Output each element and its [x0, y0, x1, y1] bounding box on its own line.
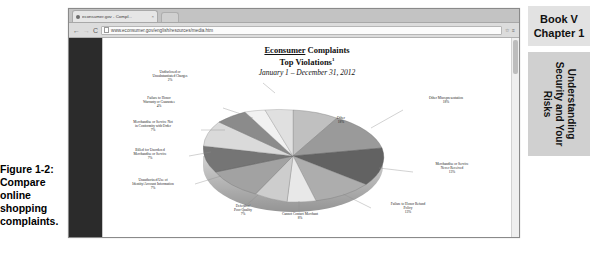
forward-icon[interactable]: → [83, 27, 90, 34]
back-icon[interactable]: ← [73, 27, 80, 34]
menu-icon[interactable]: ≡ [512, 27, 515, 33]
pie-slice-label-conformity: Merchandise or Service Not in Conformity… [105, 120, 201, 132]
pie-slice-value-defective: 7% [241, 212, 246, 216]
browser-window: econsumer.gov - Compl... × ← → C www.eco… [68, 8, 520, 238]
new-tab-button[interactable] [161, 12, 179, 22]
chart-title-footnote-marker: 1 [332, 57, 335, 62]
pie-slice-value-other-misrepresentation: 18% [443, 100, 449, 104]
pie-slice-value-identity: 7% [151, 186, 156, 190]
chapter-title-line2: Security and Your [554, 62, 565, 147]
chart-title: Econsumer Complaints [103, 45, 511, 55]
address-bar-url: www.econsumer.gov/english/resources/medi… [111, 28, 213, 33]
pie-slice-value-other: 18% [338, 120, 344, 124]
pie-slice-label-never-received: Merchandise or Service Never Received 13… [409, 162, 495, 174]
pie-slice-value-undisclosed: 2% [168, 78, 173, 82]
page-content: Econsumer Complaints Top Violations1 Jan… [102, 38, 511, 237]
pie-slice-value-refund-policy: 13% [405, 210, 411, 214]
pie-slice-label-warranty: Failure to Honor Warranty or Guarantee 4… [117, 96, 201, 108]
pie-slice-value-conformity: 7% [151, 128, 156, 132]
globe-icon [76, 15, 80, 19]
site-sidebar[interactable] [69, 38, 102, 237]
pie-slice-value-billed-unordered: 7% [148, 156, 153, 160]
vertical-scrollbar[interactable] [511, 38, 519, 237]
pie-slice-label-other-misrepresentation: Other Misrepresentation 18% [403, 96, 489, 104]
page-icon [104, 27, 109, 33]
pie-slice-label-defective: Defective/ Poor Quality 7% [207, 204, 279, 216]
pie-slice-label-identity: Unauthorized Use of Identity/Account Inf… [109, 178, 197, 190]
book-chapter-tab: Book V Chapter 1 [528, 6, 590, 46]
pie-slice-value-cannot-contact: 8% [298, 216, 303, 220]
chart-title-word-econsumer: Econsumer [264, 45, 305, 55]
pie-slice-value-never-received: 13% [449, 170, 455, 174]
pie-slice-label-refund-policy: Failure to Honor Refund Policy 13% [365, 202, 451, 214]
browser-tab[interactable]: econsumer.gov - Compl... × [72, 10, 158, 22]
chapter-title-line3: Risks [542, 91, 553, 118]
chapter-title-tab: Understanding Security and Your Risks [528, 52, 590, 156]
bookmark-star-icon[interactable]: ☆ [505, 27, 509, 33]
scrollbar-thumb[interactable] [513, 40, 518, 74]
pie-slice-label-undisclosed: Undisclosed or Unsubstantiated Charges 2… [125, 70, 215, 82]
chapter-number: Chapter 1 [534, 26, 585, 40]
address-bar[interactable]: www.econsumer.gov/english/resources/medi… [101, 26, 502, 35]
pie-slice-value-warranty: 4% [157, 104, 162, 108]
reload-icon[interactable]: C [93, 27, 98, 34]
figure-caption-text: Compare online shopping complaints. [0, 176, 58, 227]
chart-title-line2-text: Top Violations [280, 57, 332, 67]
pie-slice-label-other: Other 18% [321, 116, 361, 124]
figure-caption: Figure 1-2: Compare online shopping comp… [0, 163, 62, 228]
close-icon[interactable]: × [151, 14, 154, 19]
browser-tab-title: econsumer.gov - Compl... [82, 14, 149, 19]
chart-title-line2: Top Violations1 [103, 55, 511, 67]
pie-slice-label-billed-unordered: Billed for Unordered Merchandise or Serv… [109, 148, 191, 160]
chapter-title-text: Understanding Security and Your Risks [541, 54, 577, 154]
chapter-title-line1: Understanding [566, 69, 577, 140]
browser-tab-strip: econsumer.gov - Compl... × [69, 9, 519, 23]
figure-number: Figure 1-2: [0, 163, 62, 176]
browser-nav-bar: ← → C www.econsumer.gov/english/resource… [69, 23, 519, 38]
page-viewport: Econsumer Complaints Top Violations1 Jan… [69, 38, 519, 237]
book-number: Book V [540, 12, 578, 26]
pie-chart: Other 18% Other Misrepresentation 18% Me… [103, 68, 511, 237]
